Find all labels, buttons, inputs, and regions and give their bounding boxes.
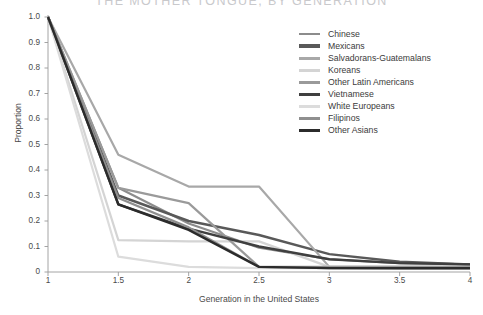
legend-label: Vietnamese	[328, 90, 374, 99]
legend-swatch-icon	[299, 44, 320, 47]
legend-label: White Europeans	[328, 102, 395, 111]
legend-swatch-icon	[299, 69, 320, 72]
chart-legend: ChineseMexicansSalvadorans-GuatemalansKo…	[299, 28, 479, 136]
legend-swatch-icon	[299, 129, 320, 132]
legend-swatch-icon	[299, 93, 320, 96]
legend-swatch-icon	[299, 105, 320, 108]
legend-label: Other Latin Americans	[328, 78, 414, 87]
legend-swatch-icon	[299, 81, 320, 84]
legend-item: Mexicans	[299, 40, 479, 52]
legend-label: Mexicans	[328, 42, 365, 51]
legend-item: Filipinos	[299, 112, 479, 124]
legend-label: Koreans	[328, 66, 360, 75]
legend-label: Salvadorans-Guatemalans	[328, 54, 431, 63]
legend-label: Filipinos	[328, 114, 360, 123]
legend-swatch-icon	[299, 117, 320, 120]
legend-swatch-icon	[299, 57, 320, 60]
legend-item: Vietnamese	[299, 88, 479, 100]
legend-item: Koreans	[299, 64, 479, 76]
legend-swatch-icon	[299, 33, 320, 36]
legend-item: Salvadorans-Guatemalans	[299, 52, 479, 64]
legend-label: Other Asians	[328, 126, 378, 135]
legend-item: Other Asians	[299, 124, 479, 136]
legend-label: Chinese	[328, 30, 360, 39]
legend-item: Chinese	[299, 28, 479, 40]
chart-figure: THE MOTHER TONGUE, BY GENERATION Proport…	[0, 0, 483, 315]
legend-item: White Europeans	[299, 100, 479, 112]
legend-item: Other Latin Americans	[299, 76, 479, 88]
